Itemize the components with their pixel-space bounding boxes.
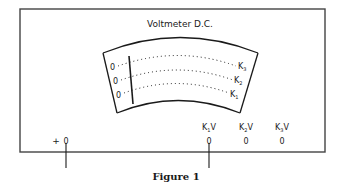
range-label-k2: K2V — [239, 123, 253, 133]
scale-row-k1 — [124, 84, 229, 94]
dial-bottom-arc — [117, 101, 240, 114]
meter-dial: 0 0 0 K3 K2 K1 — [103, 38, 258, 114]
meter-needle — [129, 56, 133, 104]
terminal-k2[interactable]: 0 — [243, 137, 248, 146]
scale-end-k3: K3 — [238, 62, 246, 72]
positive-sign: + — [52, 136, 60, 146]
terminal-k3[interactable]: 0 — [279, 137, 284, 146]
scale-end-k1: K1 — [230, 90, 238, 100]
range-label-k1: K1V — [202, 123, 216, 133]
voltmeter-diagram: Voltmeter D.C. 0 0 0 K3 K2 K1 K1V K2V K3… — [0, 0, 344, 187]
dial-top-arc — [103, 38, 258, 54]
range-label-k3: K3V — [275, 123, 289, 133]
scale-zero-k1: 0 — [116, 91, 121, 100]
figure-caption: Figure 1 — [152, 171, 199, 182]
scale-row-k3 — [118, 56, 236, 67]
scale-end-k2: K2 — [234, 76, 242, 86]
scale-row-k2 — [121, 70, 233, 80]
scale-zero-k3: 0 — [110, 63, 115, 72]
scale-zero-k2: 0 — [113, 77, 118, 86]
meter-title: Voltmeter D.C. — [147, 19, 213, 29]
